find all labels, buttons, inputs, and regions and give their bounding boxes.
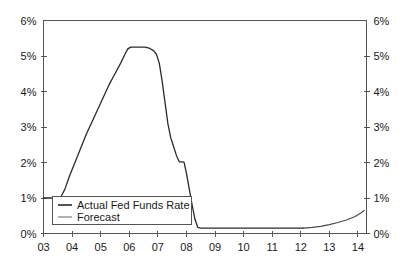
x-tick-label: 13 <box>323 241 335 253</box>
x-tick-label: 06 <box>123 241 135 253</box>
y-tick-label-right: 4% <box>374 86 390 98</box>
y-tick-label-left: 4% <box>21 86 37 98</box>
series-line-forecast <box>304 210 365 228</box>
legend: Actual Fed Funds Rate Forecast <box>53 197 192 225</box>
y-tick-label-left: 1% <box>21 192 37 204</box>
x-axis-labels: 030405060708091011121314 <box>37 241 364 253</box>
x-tick-label: 12 <box>295 241 307 253</box>
legend-label-forecast: Forecast <box>77 211 120 223</box>
x-tick-label: 07 <box>152 241 164 253</box>
x-tick-label: 08 <box>180 241 192 253</box>
x-tick-label: 11 <box>266 241 277 253</box>
chart-canvas: 0%1%2%3%4%5%6% 0%1%2%3%4%5%6% 0304050607… <box>0 0 413 262</box>
x-tick-label: 05 <box>95 241 107 253</box>
y-tick-label-right: 2% <box>374 157 390 169</box>
y-tick-label-left: 0% <box>21 228 37 240</box>
x-tick-label: 09 <box>209 241 221 253</box>
legend-label-actual: Actual Fed Funds Rate <box>77 199 190 211</box>
y-tick-label-right: 1% <box>374 192 390 204</box>
x-tick-label: 03 <box>37 241 49 253</box>
y-tick-label-right: 0% <box>374 228 390 240</box>
y-tick-label-left: 6% <box>21 15 37 27</box>
x-tick-label: 10 <box>237 241 249 253</box>
fed-funds-rate-chart: 0%1%2%3%4%5%6% 0%1%2%3%4%5%6% 0304050607… <box>0 0 413 262</box>
x-tick-label: 14 <box>352 241 364 253</box>
y-tick-label-right: 5% <box>374 50 390 62</box>
y-tick-label-left: 5% <box>21 50 37 62</box>
y-tick-label-left: 3% <box>21 121 37 133</box>
y-axis-right-labels: 0%1%2%3%4%5%6% <box>374 15 390 240</box>
y-tick-label-left: 2% <box>21 157 37 169</box>
y-tick-label-right: 6% <box>374 15 390 27</box>
x-tick-label: 04 <box>66 241 78 253</box>
y-tick-label-right: 3% <box>374 121 390 133</box>
y-axis-left-labels: 0%1%2%3%4%5%6% <box>21 15 37 240</box>
